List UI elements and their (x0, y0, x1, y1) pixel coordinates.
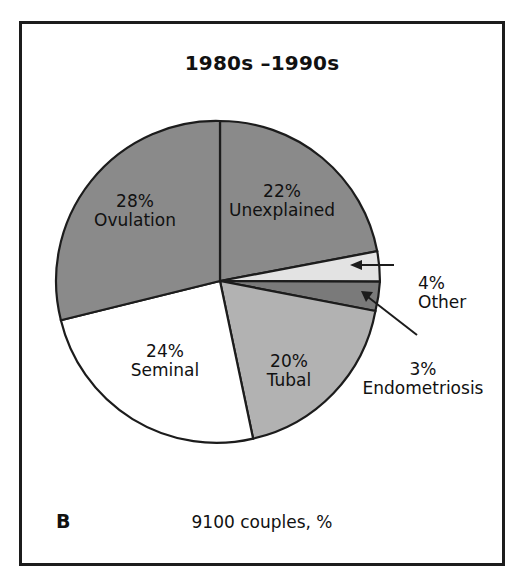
pie-label-unexplained: 22% Unexplained (202, 182, 362, 220)
pie-label-seminal: 24% Seminal (100, 342, 230, 380)
pie-label-endometriosis-name: Endometriosis (338, 379, 508, 398)
pie-label-ovulation: 28% Ovulation (70, 192, 200, 230)
pie-label-endometriosis: 3% Endometriosis (338, 360, 508, 398)
pie-label-other: 4% Other (418, 274, 504, 312)
figure-caption: 9100 couples, % (22, 512, 502, 532)
pie-label-other-name: Other (418, 293, 504, 312)
pie-label-seminal-percent: 24% (100, 342, 230, 361)
pie-label-other-percent: 4% (418, 274, 504, 293)
pie-label-unexplained-percent: 22% (202, 182, 362, 201)
pie-slices (56, 121, 380, 443)
pie-label-unexplained-name: Unexplained (202, 201, 362, 220)
pie-label-ovulation-name: Ovulation (70, 211, 200, 230)
pie-label-tubal-percent: 20% (234, 352, 344, 371)
pie-label-endometriosis-percent: 3% (338, 360, 508, 379)
pie-label-seminal-name: Seminal (100, 361, 230, 380)
pie-label-tubal: 20% Tubal (234, 352, 344, 390)
figure-panel: 1980s –1990s 28% Ovulation (19, 21, 505, 566)
pie-label-ovulation-percent: 28% (70, 192, 200, 211)
pie-label-tubal-name: Tubal (234, 371, 344, 390)
